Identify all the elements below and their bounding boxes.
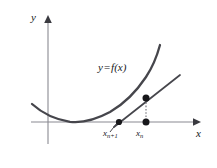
point-on-curve-marker — [143, 95, 150, 102]
x-n-plus-1-subscript: n+1 — [107, 132, 118, 139]
function-label-equals: = — [103, 61, 111, 73]
x-axis-arrowhead — [193, 118, 201, 126]
y-axis-arrowhead — [44, 15, 52, 23]
x-n-plus-1-label: xn+1 — [103, 129, 118, 139]
newtons-method-figure: y x y=f(x) xn+1 xn — [0, 0, 217, 168]
x-n-subscript: n — [140, 132, 143, 139]
x-axis-label: x — [196, 128, 201, 139]
y-axis-label: y — [31, 12, 36, 23]
xn-axis-marker — [143, 119, 150, 126]
function-curve — [32, 45, 160, 122]
function-equation-label: y=f(x) — [98, 62, 126, 73]
x-n-label: xn — [136, 129, 143, 139]
xn-plus-1-axis-marker — [116, 119, 122, 125]
figure-canvas — [0, 0, 217, 168]
function-label-fx: f(x) — [111, 61, 126, 73]
